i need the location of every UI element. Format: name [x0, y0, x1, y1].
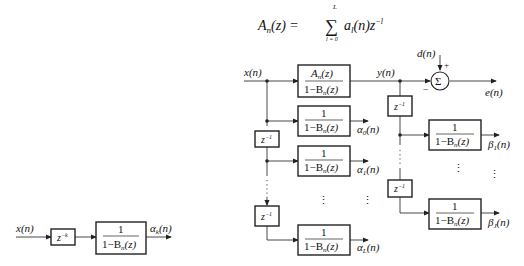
beta-J-label: βJ(n): [487, 216, 510, 230]
iir-adaptive-filter-diagram: An(z) = L ∑ l = 0 al(n)z−l: [0, 0, 524, 266]
delay-block-alpha-1: z−1: [255, 131, 279, 147]
delay-block-alpha-L: z−1: [255, 206, 279, 226]
svg-text:1: 1: [452, 121, 458, 133]
ellipsis-beta-blocks: ⋮: [453, 162, 464, 174]
svg-text:Σ: Σ: [435, 75, 441, 87]
delay-block-beta-1: z−1: [388, 96, 412, 116]
error-label-en: e(n): [485, 86, 503, 99]
main-filter-block: An(z) 1−Bn(z): [298, 65, 350, 97]
output-label-yn: y(n): [376, 66, 395, 79]
svg-text:1: 1: [321, 107, 327, 119]
small-filter-block: 1 1−Bn(z): [96, 222, 146, 254]
svg-text:1−Bn(z): 1−Bn(z): [304, 83, 338, 97]
delay-block-beta-J: z−1: [388, 180, 412, 197]
summation-node: Σ: [431, 72, 449, 90]
svg-text:1−Bn(z): 1−Bn(z): [102, 238, 136, 252]
small-output-label: αk(n): [150, 222, 172, 236]
svg-text:1: 1: [452, 200, 458, 212]
ellipsis-beta-outputs: ⋮: [489, 168, 500, 180]
eq-lhs: An(z) =: [257, 18, 299, 35]
beta-block-1: 1 1−Bn(z): [429, 120, 481, 150]
alpha-1-label: α1(n): [357, 163, 379, 177]
ellipsis-alpha-blocks: ⋮: [318, 194, 329, 206]
alpha-0-label: α0(n): [357, 123, 379, 137]
eq-sigma: ∑: [325, 16, 338, 36]
beta-1-label: β1(n): [487, 138, 510, 152]
svg-text:1: 1: [321, 147, 327, 159]
svg-text:1−Bn(z): 1−Bn(z): [435, 135, 469, 149]
svg-text:1−Bn(z): 1−Bn(z): [304, 240, 338, 254]
beta-block-J: 1 1−Bn(z): [429, 199, 481, 229]
small-delay-block: z−k: [51, 229, 75, 245]
svg-text:1: 1: [118, 223, 124, 235]
small-diagram: x(n) z−k 1 1−Bn(z) αk(n): [15, 222, 172, 254]
input-label-xn: x(n): [243, 66, 262, 79]
eq-sum-lower: l = 0: [326, 36, 338, 42]
alpha-block-0: 1 1−Bn(z): [298, 106, 350, 136]
svg-text:1−Bn(z): 1−Bn(z): [435, 214, 469, 228]
equation: An(z) = L ∑ l = 0 al(n)z−l: [257, 3, 384, 42]
alpha-L-label: αL(n): [357, 241, 380, 255]
ellipsis-alpha-outputs: ⋮: [362, 194, 373, 206]
svg-text:1−Bn(z): 1−Bn(z): [304, 161, 338, 175]
svg-text:1: 1: [321, 226, 327, 238]
small-input-label: x(n): [15, 222, 34, 235]
alpha-block-1: 1 1−Bn(z): [298, 146, 350, 176]
eq-sum-upper: L: [332, 3, 337, 11]
minus-sign: −: [423, 84, 429, 95]
plus-sign: +: [444, 60, 449, 70]
eq-term: al(n)z−l: [344, 17, 384, 35]
alpha-block-L: 1 1−Bn(z): [298, 225, 350, 255]
desired-label-dn: d(n): [417, 47, 436, 60]
svg-text:An(z): An(z): [310, 67, 333, 81]
svg-text:1−Bn(z): 1−Bn(z): [304, 121, 338, 135]
